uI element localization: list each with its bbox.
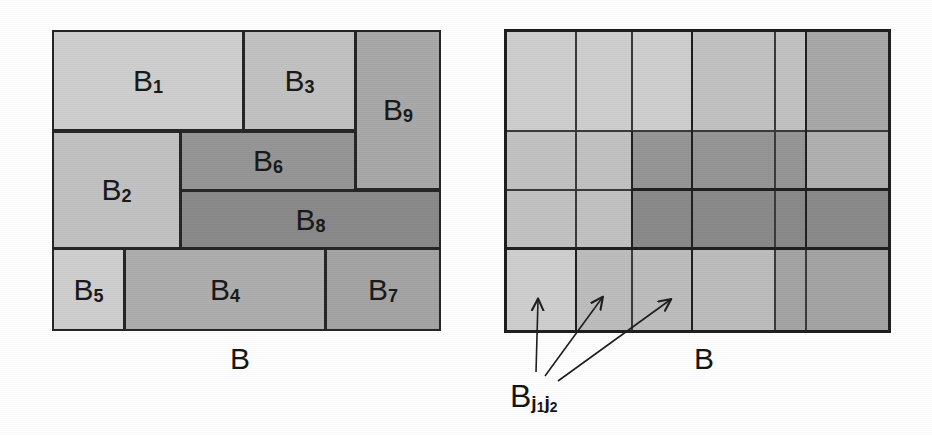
grid-cell-r3c4[interactable] <box>692 190 775 249</box>
grid-cell-r3c5[interactable] <box>775 190 806 249</box>
grid-cell-r4c5[interactable] <box>775 249 806 331</box>
grid-cell-r2c1[interactable] <box>505 131 576 190</box>
grid-cell-r1c5[interactable] <box>775 30 806 131</box>
grid-cell-r1c1[interactable] <box>505 30 576 131</box>
grid-cell-r2c5[interactable] <box>775 131 806 190</box>
grid-heavy-line-h-mid <box>632 188 891 191</box>
grid-heavy-line-h-bottom <box>505 330 891 333</box>
grid-cell-r4c6[interactable] <box>806 249 890 331</box>
grid-heavy-line-v-c3 <box>691 29 693 333</box>
grid-heavy-line-h-lower <box>505 247 891 250</box>
grid-cell-r4c1[interactable] <box>505 249 576 331</box>
grid-cell-r4c4[interactable] <box>692 249 775 331</box>
grid-cell-r3c2[interactable] <box>576 190 632 249</box>
grid-cell-r1c4[interactable] <box>692 30 775 131</box>
grid-cell-label-sub: j1j2 <box>531 392 557 413</box>
grid-cell-r4c3[interactable] <box>632 249 692 331</box>
grid-cell-r2c4[interactable] <box>692 131 775 190</box>
grid-cell-r1c6[interactable] <box>806 30 890 131</box>
figure-canvas: B1 B3 B9 B2 B6 B8 B5 B4 B7 <box>0 0 932 435</box>
grid-cell-r3c6[interactable] <box>806 190 890 249</box>
grid-heavy-line-h-top <box>505 29 891 32</box>
grid-cell-r4c2[interactable] <box>576 249 632 331</box>
grid-heavy-line-v-c5a <box>805 29 807 249</box>
grid-cell-label: Bj1j2 <box>510 380 557 412</box>
grid-cell-r2c2[interactable] <box>576 131 632 190</box>
grid-cell-r2c6[interactable] <box>806 131 890 190</box>
grid-heavy-line-v-left <box>504 29 507 333</box>
grid-refinement-panel: B Bj1j2 <box>0 0 932 435</box>
grid-cell-r1c3[interactable] <box>632 30 692 131</box>
right-panel-caption: B <box>694 344 714 374</box>
grid-heavy-line-v-c2 <box>575 247 577 333</box>
grid-heavy-line-v-c1 <box>631 131 633 249</box>
grid-heavy-line-v-right <box>888 29 891 333</box>
grid-cell-r2c3[interactable] <box>632 131 692 190</box>
grid-cell-r1c2[interactable] <box>576 30 632 131</box>
grid-cell-r3c1[interactable] <box>505 190 576 249</box>
grid-cell-r3c3[interactable] <box>632 190 692 249</box>
